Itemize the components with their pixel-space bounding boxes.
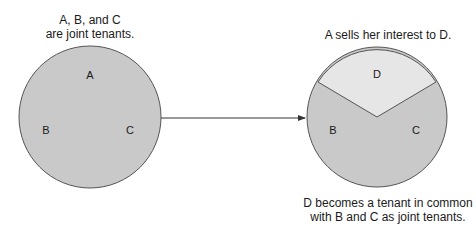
diagram-canvas: A B C D B C xyxy=(0,0,476,232)
label-b-after: B xyxy=(329,124,336,136)
tenancy-in-common-circle: D B C xyxy=(307,47,447,187)
label-d: D xyxy=(373,68,381,80)
joint-tenancy-circle: A B C xyxy=(19,46,161,188)
label-a: A xyxy=(86,69,94,81)
label-b: B xyxy=(42,124,49,136)
label-c-after: C xyxy=(412,124,420,136)
label-c: C xyxy=(126,124,134,136)
